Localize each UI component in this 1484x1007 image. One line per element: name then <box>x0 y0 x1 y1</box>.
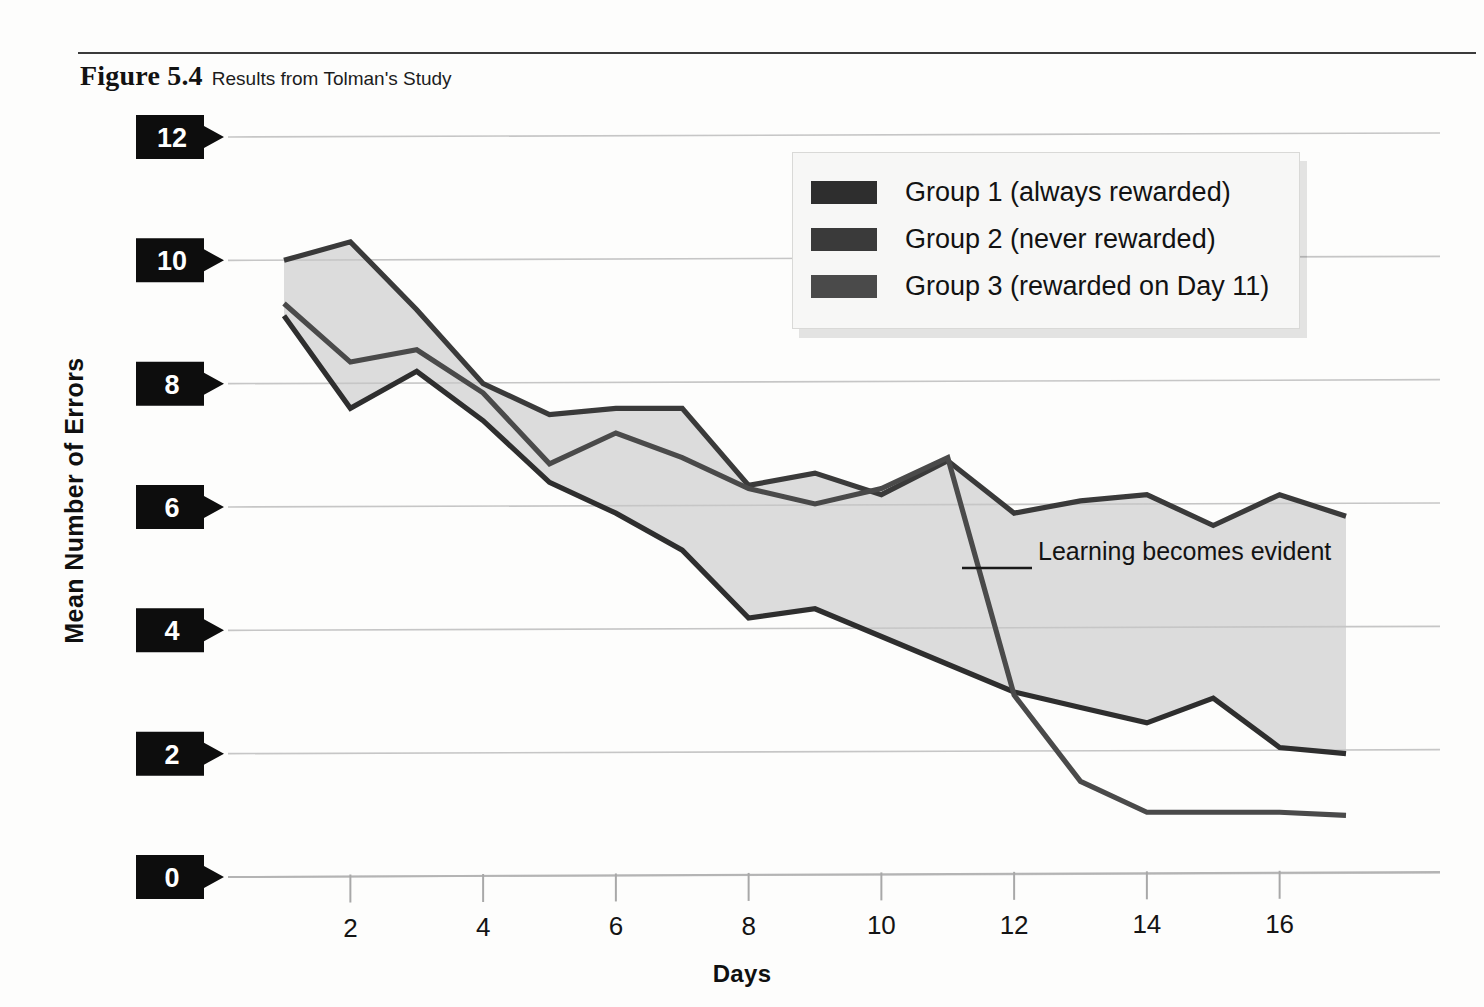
figure-container: Figure 5.4Results from Tolman's Study 24… <box>0 0 1484 1007</box>
y-axis-tag-label-6: 6 <box>164 493 179 523</box>
x-tick-label-6: 6 <box>609 911 623 941</box>
legend-item: Group 3 (rewarded on Day 11) <box>811 263 1281 310</box>
x-axis-title: Days <box>0 960 1484 988</box>
legend-item: Group 1 (always rewarded) <box>811 169 1281 216</box>
x-tick-label-16: 16 <box>1265 909 1294 939</box>
gridline-y-2 <box>228 750 1440 754</box>
y-axis-tag-label-10: 10 <box>157 246 187 276</box>
gridline-y-8 <box>228 380 1440 384</box>
y-axis-tag-6: 6 <box>136 485 224 529</box>
y-axis-tag-label-8: 8 <box>164 370 179 400</box>
y-axis-tag-shape-0 <box>136 855 224 899</box>
y-axis-tag-label-0: 0 <box>164 863 179 893</box>
y-axis-tag-shape-8 <box>136 362 224 406</box>
y-axis-tag-label-12: 12 <box>157 123 187 153</box>
x-axis-line <box>228 872 1440 877</box>
y-axis-tag-label-2: 2 <box>164 740 179 770</box>
legend-label-group-3: Group 3 (rewarded on Day 11) <box>905 271 1269 302</box>
y-axis-tag-12: 12 <box>136 115 224 159</box>
legend-swatch-group-2 <box>811 228 877 251</box>
y-axis-tag-shape-6 <box>136 485 224 529</box>
x-tick-label-4: 4 <box>476 912 490 942</box>
x-tick-label-8: 8 <box>741 911 755 941</box>
legend-label-group-1: Group 1 (always rewarded) <box>905 177 1231 208</box>
y-axis-tag-0: 0 <box>136 855 224 899</box>
x-tick-label-14: 14 <box>1132 909 1161 939</box>
y-axis-tag-10: 10 <box>136 238 224 282</box>
chart-legend: Group 1 (always rewarded) Group 2 (never… <box>792 152 1300 329</box>
y-axis-tag-2: 2 <box>136 732 224 776</box>
learning-annotation: Learning becomes evident <box>1038 535 1338 567</box>
y-axis-tag-group: 121086420 <box>136 115 224 899</box>
legend-swatch-group-3 <box>811 275 877 298</box>
x-tick-label-12: 12 <box>1000 910 1029 940</box>
x-tick-label-10: 10 <box>867 910 896 940</box>
gridline-y-12 <box>228 133 1440 137</box>
y-axis-tag-8: 8 <box>136 362 224 406</box>
legend-swatch-group-1 <box>811 181 877 204</box>
y-axis-tag-shape-4 <box>136 608 224 652</box>
x-axis-line-group <box>228 872 1440 877</box>
x-tick-group: 246810121416 <box>343 871 1294 943</box>
y-axis-title: Mean Number of Errors <box>60 341 89 661</box>
y-axis-tag-label-4: 4 <box>164 616 179 646</box>
x-tick-label-2: 2 <box>343 913 357 943</box>
y-axis-tag-4: 4 <box>136 608 224 652</box>
y-axis-tag-shape-2 <box>136 732 224 776</box>
legend-item: Group 2 (never rewarded) <box>811 216 1281 263</box>
legend-label-group-2: Group 2 (never rewarded) <box>905 224 1216 255</box>
